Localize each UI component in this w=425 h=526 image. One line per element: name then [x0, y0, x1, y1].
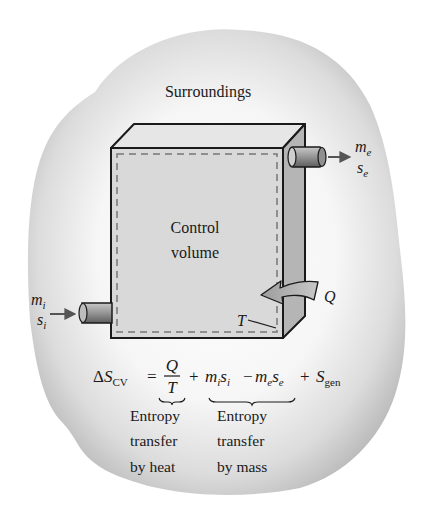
surroundings-label: Surroundings — [165, 83, 251, 101]
exit-pipe — [288, 147, 326, 167]
svg-text:+: + — [300, 367, 310, 386]
svg-text:T: T — [167, 378, 178, 397]
inlet-pipe — [79, 303, 112, 323]
heat-transfer-caption: Entropy transfer by heat — [130, 407, 180, 475]
svg-text:=: = — [147, 367, 157, 386]
heat-label: Q — [324, 288, 336, 305]
svg-text:transfer: transfer — [130, 432, 178, 449]
mass-transfer-caption: Entropy transfer by mass — [217, 407, 267, 475]
svg-text:by heat: by heat — [130, 458, 176, 475]
control-volume-top-face — [111, 124, 305, 148]
svg-text:by mass: by mass — [217, 458, 267, 475]
boundary-temperature-label: T — [237, 312, 247, 329]
svg-text:Entropy: Entropy — [130, 407, 180, 424]
control-volume-entropy-diagram: Surroundings Control volume me se mi si … — [0, 0, 425, 526]
control-volume-label-line1: Control — [171, 219, 220, 236]
control-volume-label-line2: volume — [171, 244, 219, 261]
control-volume-front-face — [111, 148, 283, 338]
svg-text:transfer: transfer — [217, 432, 265, 449]
svg-text:Q: Q — [166, 356, 178, 375]
svg-text:+: + — [189, 367, 199, 386]
svg-text:−: − — [243, 367, 253, 386]
svg-text:Entropy: Entropy — [217, 407, 267, 424]
